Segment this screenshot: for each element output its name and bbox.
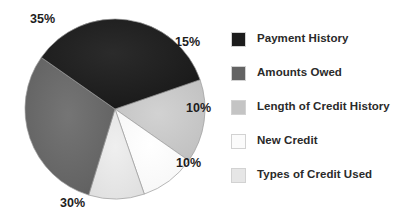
chart-legend: Payment HistoryAmounts OwedLength of Cre… [231,22,397,192]
legend-swatch-icon-new-credit [231,134,246,149]
pie-value-label-length-of-credit-history: 15% [175,36,200,49]
legend-item-payment-history[interactable]: Payment History [231,22,397,56]
legend-item-label: Types of Credit Used [257,169,372,181]
pie-chart-plot-area: 35% 15% 10% 10% 30% [0,0,225,221]
legend-swatch-icon-amounts-owed [231,66,246,81]
legend-item-amounts-owed[interactable]: Amounts Owed [231,56,397,90]
legend-item-label: Payment History [257,33,349,45]
pie-chart-figure: 35% 15% 10% 10% 30% Payment HistoryAmoun… [0,0,397,221]
legend-swatch-icon-types-of-credit-used [231,168,246,183]
legend-swatch-icon-payment-history [231,32,246,47]
pie-value-label-payment-history: 35% [30,13,55,26]
pie-value-label-types-of-credit-used: 10% [176,157,201,170]
legend-item-label: Length of Credit History [257,101,390,113]
legend-item-new-credit[interactable]: New Credit [231,124,397,158]
pie-value-label-amounts-owed: 30% [60,197,85,210]
pie-value-label-new-credit: 10% [186,102,211,115]
legend-item-length-of-credit-history[interactable]: Length of Credit History [231,90,397,124]
legend-swatch-icon-length-of-credit-history [231,100,246,115]
legend-item-label: New Credit [257,135,318,147]
legend-item-label: Amounts Owed [257,67,342,79]
legend-item-types-of-credit-used[interactable]: Types of Credit Used [231,158,397,192]
